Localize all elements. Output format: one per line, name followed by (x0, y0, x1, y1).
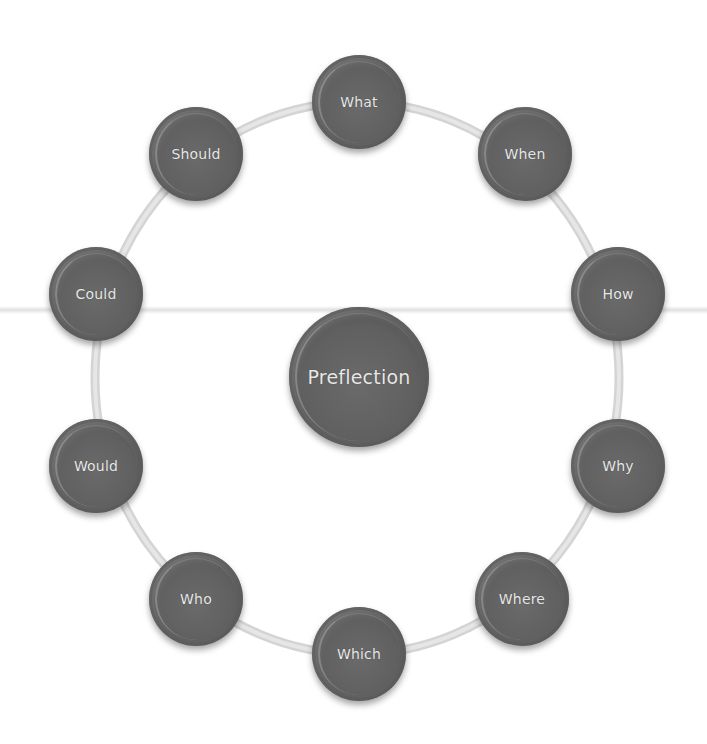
node-label: When (504, 146, 545, 162)
node-label: Should (171, 146, 220, 162)
center-node-label: Preflection (308, 366, 411, 388)
node-who: Who (149, 552, 243, 646)
node-label: Where (499, 591, 545, 607)
node-label: Would (74, 458, 118, 474)
node-why: Why (571, 419, 665, 513)
node-label: How (602, 286, 633, 302)
node-label: What (340, 94, 378, 110)
node-how: How (571, 247, 665, 341)
node-label: Could (76, 286, 117, 302)
node-could: Could (49, 247, 143, 341)
node-label: Why (602, 458, 634, 474)
node-when: When (478, 107, 572, 201)
node-label: Who (180, 591, 212, 607)
node-what: What (312, 55, 406, 149)
node-where: Where (475, 552, 569, 646)
node-label: Which (337, 646, 381, 662)
node-would: Would (49, 419, 143, 513)
node-should: Should (149, 107, 243, 201)
node-which: Which (312, 607, 406, 701)
center-node-preflection: Preflection (289, 307, 429, 447)
